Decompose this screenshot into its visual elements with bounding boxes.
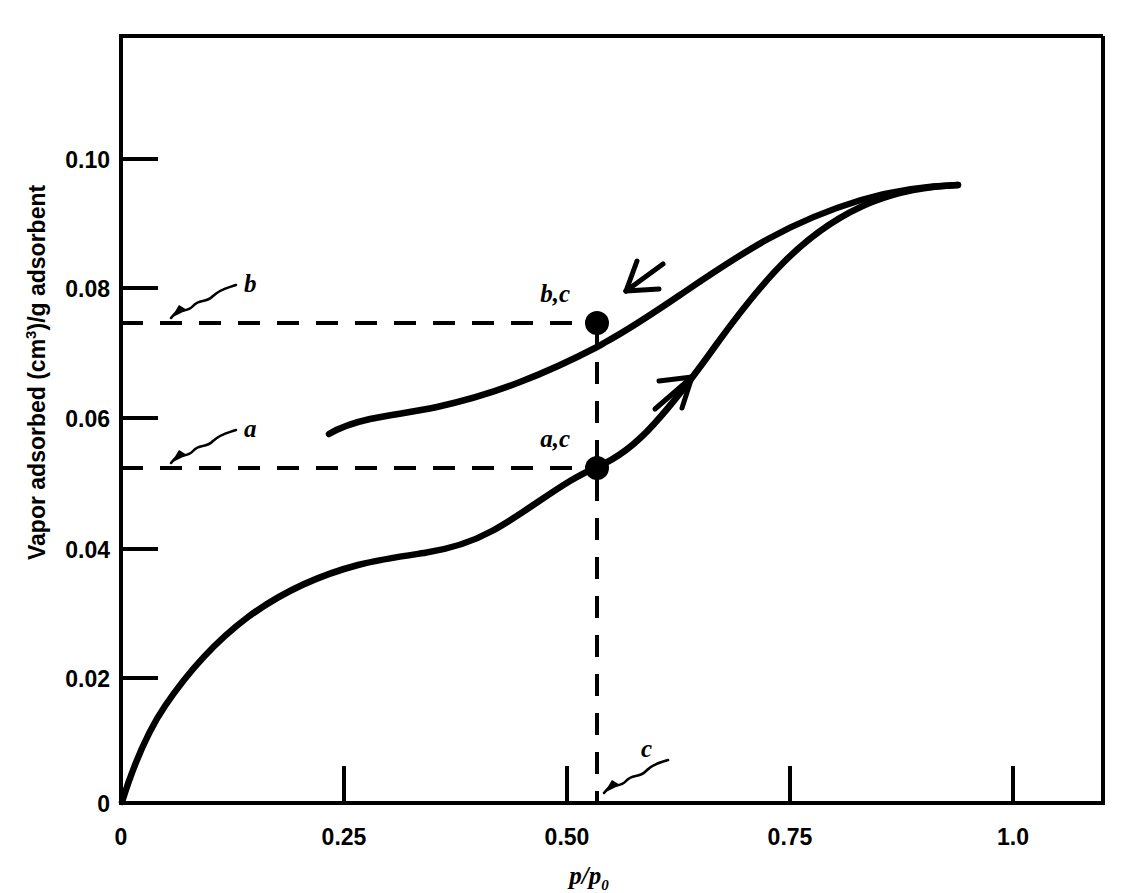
y-axis-title-main: Vapor adsorbed (cm: [24, 339, 50, 560]
x-axis-title-main: p/p: [567, 862, 601, 889]
y-tick-label-2: 0.06: [65, 406, 110, 432]
svg-text:Vapor adsorbed (cm3)/g adsorbe: Vapor adsorbed (cm3)/g adsorbent: [22, 185, 50, 560]
x-tick-label-1: 0.25: [322, 824, 367, 850]
y-axis-title-tail: )/g adsorbent: [24, 185, 50, 331]
y-tick-label-1: 0.08: [65, 276, 110, 302]
callout-label-c: c: [641, 735, 652, 762]
x-tick-label-3: 0.75: [768, 824, 813, 850]
y-tick-label-0: 0.10: [65, 147, 110, 173]
point-label-bc: b,c: [540, 280, 570, 307]
y-tick-label-5: 0: [97, 791, 110, 817]
adsorption-isotherm-figure: 0.10 0.08 0.06 0.04 0.02 0 Vapor adsorbe…: [0, 0, 1130, 893]
y-axis-title: Vapor adsorbed (cm3)/g adsorbent: [22, 185, 50, 560]
y-tick-label-3: 0.04: [65, 537, 110, 563]
x-axis-title-subscript: 0: [601, 877, 609, 893]
point-label-ac: a,c: [540, 425, 570, 452]
data-point-ac[interactable]: [585, 456, 609, 480]
callout-label-b: b: [244, 270, 257, 297]
x-tick-label-2: 0.50: [545, 824, 590, 850]
x-tick-label-0: 0: [115, 824, 128, 850]
y-tick-label-4: 0.02: [65, 666, 110, 692]
callout-label-a: a: [244, 415, 257, 442]
data-point-bc[interactable]: [585, 311, 609, 335]
x-tick-label-4: 1.0: [997, 824, 1029, 850]
chart-canvas: 0.10 0.08 0.06 0.04 0.02 0 Vapor adsorbe…: [0, 0, 1130, 893]
y-axis-title-superscript: 3: [22, 331, 39, 339]
